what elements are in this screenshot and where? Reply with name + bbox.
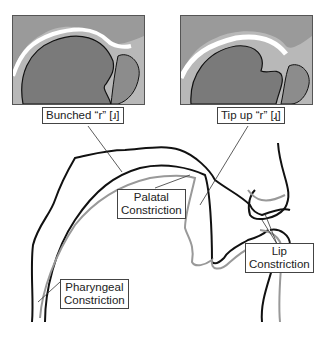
palatal-line1: Palatal — [121, 191, 182, 204]
pharyngeal-line2: Constriction — [64, 294, 125, 307]
pharyngeal-line1: Pharyngeal — [64, 281, 125, 294]
label-pharyngeal-constriction: Pharyngeal Constriction — [60, 279, 129, 309]
label-palatal-constriction: Palatal Constriction — [117, 189, 186, 219]
palatal-line2: Constriction — [121, 204, 182, 217]
lip-line2: Constriction — [249, 258, 310, 271]
vocal-tract-outline — [0, 0, 330, 338]
lip-line1: Lip — [249, 245, 310, 258]
label-lip-constriction: Lip Constriction — [245, 243, 314, 273]
